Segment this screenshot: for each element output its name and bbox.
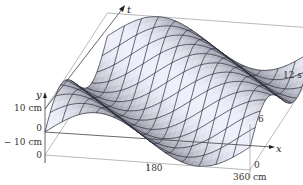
x-tick-180: 180 [145,163,162,173]
t-tick-12s: 12 s [283,70,302,80]
x-axis-label: x [276,143,282,154]
origin-zero: 0 [36,150,42,160]
y-axis-label: y [35,89,42,100]
x-tick-360cm: 360 cm [233,172,267,182]
y-tick-0: 0 [36,123,42,133]
y-tick-neg10cm: − 10 cm [4,137,43,147]
wave-surface-plot: y t x 10 cm 0 − 10 cm 0 180 0 360 cm 6 1… [0,0,303,185]
y-tick-10cm: 10 cm [14,103,42,113]
wave-surface [45,17,303,167]
x-tick-end-zero: 0 [254,160,260,170]
t-axis-label: t [127,4,132,15]
t-tick-6: 6 [258,114,264,124]
